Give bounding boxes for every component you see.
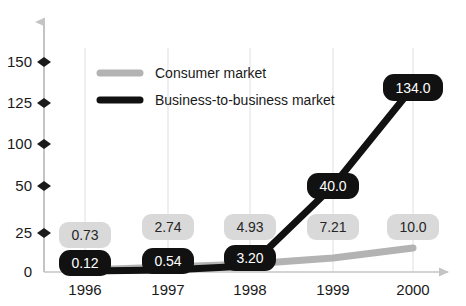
y-axis (37, 22, 51, 272)
data-label-b2b-1999: 40.0 (307, 173, 359, 199)
x-tick-label-2000: 2000 (396, 281, 429, 298)
data-label-b2b-1998: 3.20 (224, 245, 276, 271)
data-label-consumer-1997-text: 2.74 (154, 219, 181, 235)
y-tick-label-25: 25 (15, 224, 32, 241)
data-label-b2b-1999-text: 40.0 (319, 178, 346, 194)
data-label-consumer-1996-text: 0.73 (71, 227, 98, 243)
data-label-b2b-1997: 0.54 (142, 248, 194, 274)
legend-label-b2b: Business-to-business market (155, 92, 335, 108)
y-tick-label-125: 125 (7, 94, 32, 111)
legend-label-consumer: Consumer market (155, 65, 266, 81)
data-label-consumer-1999: 7.21 (307, 214, 359, 240)
x-tick-label-1998: 1998 (233, 281, 266, 298)
chart-canvas: 150 125 100 50 25 0 1996 1997 1998 1999 … (0, 0, 466, 306)
data-label-b2b-1996-text: 0.12 (71, 255, 98, 271)
series-line-b2b (85, 87, 413, 271)
legend: Consumer market Business-to-business mar… (100, 65, 335, 108)
y-tick-label-100: 100 (7, 135, 32, 152)
data-label-consumer-1999-text: 7.21 (319, 219, 346, 235)
data-label-consumer-1996: 0.73 (59, 222, 111, 248)
chart-container: 150 125 100 50 25 0 1996 1997 1998 1999 … (0, 0, 466, 306)
y-tick-label-150: 150 (7, 53, 32, 70)
data-label-b2b-1998-text: 3.20 (236, 250, 263, 266)
x-tick-label-1996: 1996 (68, 281, 101, 298)
x-tick-label-1999: 1999 (316, 281, 349, 298)
y-tick-label-0: 0 (24, 263, 32, 280)
data-label-consumer-1998-text: 4.93 (236, 219, 263, 235)
x-tick-label-1997: 1997 (151, 281, 184, 298)
data-label-b2b-2000-text: 134.0 (395, 80, 430, 96)
y-tick-label-50: 50 (15, 177, 32, 194)
data-label-consumer-1998: 4.93 (224, 214, 276, 240)
data-label-consumer-2000: 10.0 (387, 214, 439, 240)
data-label-b2b-1997-text: 0.54 (154, 253, 181, 269)
data-label-consumer-1997: 2.74 (142, 214, 194, 240)
data-label-consumer-2000-text: 10.0 (399, 219, 426, 235)
data-label-b2b-2000: 134.0 (383, 74, 443, 101)
data-label-b2b-1996: 0.12 (59, 250, 111, 276)
